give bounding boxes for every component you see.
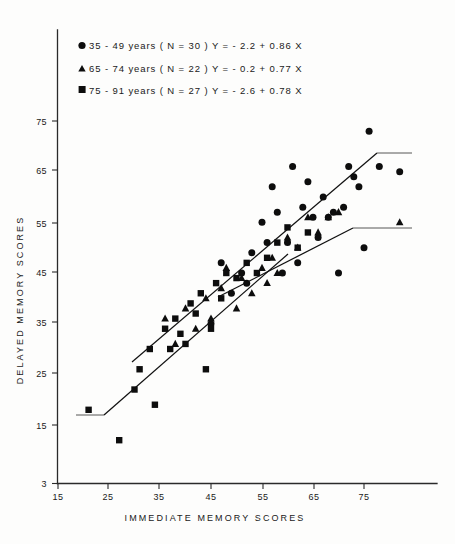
- data-point-square: [208, 326, 214, 332]
- data-point-square: [213, 280, 219, 286]
- y-axis-ticks: [52, 121, 58, 484]
- data-point-circle: [396, 168, 403, 175]
- data-point-circle: [259, 219, 266, 226]
- y-tick-label: 55: [36, 219, 47, 229]
- y-tick-label: 65: [36, 166, 47, 176]
- data-point-circle: [218, 259, 225, 266]
- circle-marker-icon: [78, 42, 85, 49]
- data-point-triangle: [161, 315, 169, 322]
- data-point-square: [233, 275, 239, 281]
- data-point-circle: [366, 128, 373, 135]
- data-point-circle: [335, 270, 342, 277]
- y-axis-tick-labels: 75 65 55 45 35 25 15 3: [36, 117, 47, 490]
- x-tick-label: 75: [359, 492, 370, 502]
- x-tick-label: 15: [53, 492, 64, 502]
- legend-entry-75-91: 75 - 91 years ( N = 27 ) Y = - 2.6 + 0.7…: [79, 85, 303, 96]
- y-tick-label: 3: [42, 479, 47, 489]
- data-point-circle: [269, 183, 276, 190]
- data-point-circle: [264, 239, 271, 246]
- y-tick-label: 45: [36, 268, 47, 278]
- data-point-square: [284, 224, 290, 230]
- y-tick-label: 75: [36, 117, 47, 127]
- data-point-triangle: [284, 233, 292, 240]
- data-point-square: [131, 386, 137, 392]
- data-point-circle: [304, 178, 311, 185]
- legend-entry-65-74: 65 - 74 years ( N = 22 ) Y = - 0.2 + 0.7…: [78, 63, 302, 74]
- x-tick-label: 25: [103, 492, 114, 502]
- data-point-square: [203, 366, 209, 372]
- legend-label-35-49: 35 - 49 years ( N = 30 ) Y = - 2.2 + 0.8…: [89, 40, 302, 51]
- data-point-circle: [355, 183, 362, 190]
- data-point-square: [162, 326, 168, 332]
- data-point-square: [264, 255, 270, 261]
- data-point-circle: [228, 290, 235, 297]
- x-axis-title: IMMEDIATE MEMORY SCORES: [125, 513, 306, 523]
- data-point-square: [223, 270, 229, 276]
- data-point-square: [85, 407, 91, 413]
- data-point-square: [172, 315, 178, 321]
- data-point-circle: [289, 163, 296, 170]
- axes: 75 65 55 45 35 25 15 3 15 25: [15, 30, 437, 523]
- legend-label-65-74: 65 - 74 years ( N = 22 ) Y = - 0.2 + 0.7…: [89, 63, 302, 74]
- data-point-circle: [299, 204, 306, 211]
- data-point-triangle: [396, 218, 404, 225]
- data-point-circle: [345, 163, 352, 170]
- x-axis-tick-labels: 15 25 35 45 55 65 75: [53, 492, 370, 502]
- square-marker-icon: [79, 86, 86, 93]
- data-point-square: [187, 300, 193, 306]
- data-point-square: [116, 437, 122, 443]
- y-tick-label: 35: [36, 318, 47, 328]
- data-point-circle: [376, 163, 383, 170]
- x-tick-label: 45: [206, 492, 217, 502]
- data-point-square: [254, 270, 260, 276]
- data-point-square: [167, 346, 173, 352]
- data-points-layer: [85, 128, 403, 444]
- triangle-marker-icon: [78, 65, 85, 72]
- x-tick-label: 35: [154, 492, 165, 502]
- x-axis-ticks: [58, 484, 364, 490]
- data-point-square: [218, 295, 224, 301]
- figure-canvas: 35 - 49 years ( N = 30 ) Y = - 2.2 + 0.8…: [0, 0, 455, 544]
- data-point-square: [244, 260, 250, 266]
- data-point-circle: [350, 173, 357, 180]
- data-point-circle: [274, 209, 281, 216]
- data-point-triangle: [263, 279, 271, 286]
- legend-entry-35-49: 35 - 49 years ( N = 30 ) Y = - 2.2 + 0.8…: [78, 40, 302, 51]
- data-point-triangle: [192, 325, 200, 332]
- data-point-square: [177, 331, 183, 337]
- data-point-square: [198, 290, 204, 296]
- data-point-circle: [320, 194, 327, 201]
- series-square: [85, 224, 311, 443]
- data-point-triangle: [248, 289, 256, 296]
- series-circle: [208, 128, 404, 328]
- data-point-circle: [248, 249, 255, 256]
- y-tick-label: 25: [36, 369, 47, 379]
- data-point-triangle: [233, 304, 241, 311]
- scatter-plot-svg: 35 - 49 years ( N = 30 ) Y = - 2.2 + 0.8…: [0, 0, 455, 544]
- data-point-square: [147, 346, 153, 352]
- data-point-square: [305, 229, 311, 235]
- x-tick-label: 65: [309, 492, 320, 502]
- data-point-square: [136, 366, 142, 372]
- y-axis-title: DELAYED MEMORY SCORES: [15, 216, 25, 385]
- series-triangle: [161, 208, 403, 347]
- data-point-circle: [340, 204, 347, 211]
- legend: 35 - 49 years ( N = 30 ) Y = - 2.2 + 0.8…: [78, 40, 302, 96]
- data-point-square: [152, 402, 158, 408]
- data-point-circle: [361, 244, 368, 251]
- regression-line-35-49: [132, 153, 377, 362]
- data-point-square: [295, 244, 301, 250]
- x-tick-label: 55: [258, 492, 269, 502]
- legend-label-75-91: 75 - 91 years ( N = 27 ) Y = - 2.6 + 0.7…: [89, 85, 302, 96]
- data-point-square: [182, 341, 188, 347]
- data-point-circle: [294, 259, 301, 266]
- data-point-triangle: [314, 228, 322, 235]
- data-point-square: [193, 310, 199, 316]
- y-tick-label: 15: [36, 421, 47, 431]
- data-point-square: [274, 239, 280, 245]
- data-point-triangle: [207, 315, 215, 322]
